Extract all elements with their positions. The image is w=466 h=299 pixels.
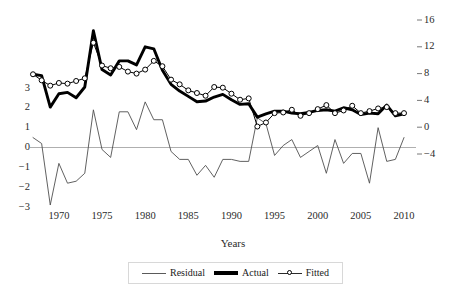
left-tick-1: 2 (8, 102, 30, 113)
x-tick-1: 1975 (82, 211, 122, 222)
chart-legend: Residual Actual Fitted (128, 262, 343, 284)
legend-label-residual: Residual (170, 268, 205, 278)
x-tick-2: 1980 (125, 211, 165, 222)
actual-line-swatch-icon (214, 268, 238, 278)
right-tick-4: 0 (424, 122, 452, 133)
chart-container: 3210−1−2−3 1612840−4 1970197519801985199… (0, 0, 466, 299)
left-tick-6: −3 (8, 202, 30, 213)
x-tick-8: 2010 (384, 211, 424, 222)
right-tick-3: 4 (424, 95, 452, 106)
chart-plot-area (0, 0, 466, 299)
right-tick-0: 16 (424, 15, 452, 26)
fitted-marker-swatch-icon (278, 268, 302, 278)
x-tick-0: 1970 (39, 211, 79, 222)
right-tick-1: 12 (424, 41, 452, 52)
x-tick-6: 2000 (298, 211, 338, 222)
x-tick-4: 1990 (211, 211, 251, 222)
series-fitted-markers (31, 40, 407, 129)
x-tick-3: 1985 (168, 211, 208, 222)
left-tick-5: −2 (8, 182, 30, 193)
left-tick-3: 0 (8, 142, 30, 153)
series-actual-line (33, 31, 404, 117)
x-tick-7: 2005 (341, 211, 381, 222)
x-tick-5: 1995 (255, 211, 295, 222)
legend-label-fitted: Fitted (306, 268, 329, 278)
legend-label-actual: Actual (242, 268, 269, 278)
right-tick-2: 8 (424, 68, 452, 79)
legend-item-fitted[interactable]: Fitted (278, 268, 329, 278)
left-tick-4: −1 (8, 162, 30, 173)
x-axis-title: Years (0, 237, 466, 249)
series-residual-line (33, 102, 404, 205)
right-axis-tick-marks (417, 20, 422, 154)
left-tick-0: 3 (8, 83, 30, 94)
legend-item-actual[interactable]: Actual (214, 268, 269, 278)
legend-item-residual[interactable]: Residual (142, 268, 205, 278)
residual-line-swatch-icon (142, 268, 166, 278)
right-tick-5: −4 (424, 149, 452, 160)
left-tick-2: 1 (8, 122, 30, 133)
